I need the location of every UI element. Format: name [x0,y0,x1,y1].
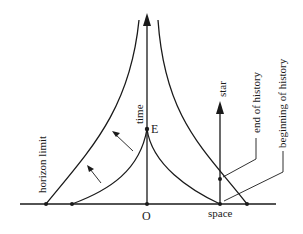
time-label: time [133,104,145,124]
space-label: space [208,207,233,219]
beginning-of-history-label: beginning of history [276,58,288,148]
origin-label: O [142,209,151,223]
star-arrow-icon [216,101,224,114]
end-of-history-leader [223,138,256,177]
event-point [145,127,149,131]
origin-point [145,202,149,206]
inner-left-curve [72,129,147,204]
spacetime-diagram: O E space time horizon limit star end of… [0,0,303,234]
beginning-of-history-leader [224,151,283,201]
inner-left-point [70,202,74,206]
star-label: star [216,81,228,97]
horizon-limit-point [44,202,48,206]
expansion-arrow-upper [115,134,133,151]
time-axis-arrow-icon [143,13,151,26]
horizon-limit-curve [46,20,139,204]
event-label: E [151,122,158,136]
inner-right-curve [147,129,220,204]
end-of-history-label: end of history [250,71,262,133]
star-base-point [218,202,222,206]
outer-right-curve [158,20,247,204]
outer-right-point [245,202,249,206]
arrowhead-icon [112,131,120,137]
expansion-arrow-lower [90,169,101,183]
arrowhead-icon [87,165,94,172]
end-of-history-point [218,177,222,181]
horizon-limit-label: horizon limit [36,136,48,193]
